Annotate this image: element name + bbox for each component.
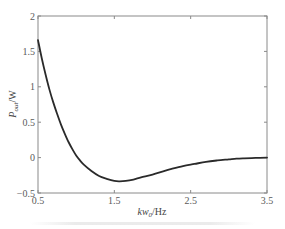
plot-frame bbox=[38, 16, 267, 193]
x-tick-label: 3.5 bbox=[261, 195, 274, 206]
y-tick-label: 2 bbox=[30, 11, 35, 22]
y-axis-label: Pout/W bbox=[7, 90, 20, 119]
pout-curve bbox=[38, 40, 267, 181]
y-tick-label: 0 bbox=[30, 152, 35, 163]
x-tick-label: 1.5 bbox=[108, 195, 121, 206]
x-tick-label: 0.5 bbox=[32, 195, 45, 206]
x-tick-label: 2.5 bbox=[184, 195, 197, 206]
line-chart: −0.500.511.52 0.51.52.53.5 kw0/Hz Pout/W bbox=[0, 0, 285, 229]
y-tick-label: 1.5 bbox=[23, 46, 36, 57]
x-axis-ticks: 0.51.52.53.5 bbox=[32, 16, 274, 206]
x-axis-label: kw0/Hz bbox=[137, 206, 167, 219]
faded-caption bbox=[30, 222, 255, 225]
y-tick-label: 1 bbox=[30, 81, 35, 92]
y-tick-label: 0.5 bbox=[23, 117, 36, 128]
